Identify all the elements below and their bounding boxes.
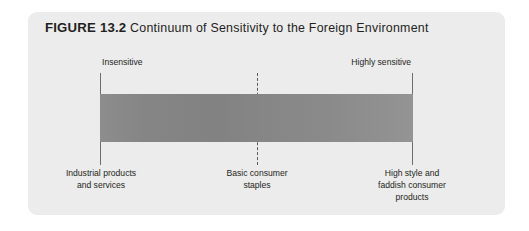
label-highly-sensitive: Highly sensitive <box>311 57 411 69</box>
label-industrial-line1: Industrial products <box>30 168 172 180</box>
label-high-style-line3: products <box>346 192 478 204</box>
label-basic-line2: staples <box>192 180 322 192</box>
continuum-gradient-bar <box>100 94 413 142</box>
label-industrial-line2: and services <box>30 180 172 192</box>
label-high-style-line2: faddish consumer <box>346 180 478 192</box>
continuum-chart: Insensitive Highly sensitive Industrial … <box>28 12 505 215</box>
label-high-style-line1: High style and <box>346 168 478 180</box>
figure-card: FIGURE 13.2 Continuum of Sensitivity to … <box>28 12 505 215</box>
label-high-style-products: High style and faddish consumer products <box>346 168 478 203</box>
label-basic-consumer-staples: Basic consumer staples <box>192 168 322 192</box>
label-insensitive: Insensitive <box>102 57 143 69</box>
label-industrial-products: Industrial products and services <box>30 168 172 192</box>
label-basic-line1: Basic consumer <box>192 168 322 180</box>
